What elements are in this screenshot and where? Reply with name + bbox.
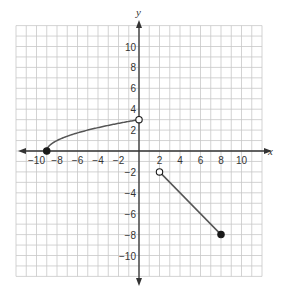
y-axis-label: y <box>135 6 141 18</box>
y-tick-label: 6 <box>130 83 136 94</box>
y-tick-label: 8 <box>130 62 136 73</box>
x-tick-label: −8 <box>51 155 63 166</box>
y-tick-label: −6 <box>125 209 137 220</box>
curve-path <box>47 120 139 151</box>
y-tick-label: −4 <box>125 188 137 199</box>
closed-endpoint-icon <box>218 231 224 237</box>
open-endpoint-icon <box>136 116 142 122</box>
x-tick-label: 8 <box>218 155 224 166</box>
x-tick-label: 4 <box>177 155 183 166</box>
y-axis-down-arrow-icon <box>136 278 142 286</box>
y-axis-up-arrow-icon <box>136 20 142 28</box>
x-axis-left-arrow-icon <box>18 148 26 154</box>
coordinate-plane: −10−8−6−4−2246810108642−2−4−6−8−10 x y <box>0 0 282 293</box>
y-tick-label: 10 <box>125 42 137 53</box>
x-tick-label: 10 <box>236 155 248 166</box>
x-tick-label: 2 <box>157 155 163 166</box>
open-endpoint-icon <box>156 169 162 175</box>
x-tick-label: −2 <box>113 155 125 166</box>
x-tick-label: −6 <box>72 155 84 166</box>
y-tick-label: −10 <box>119 251 136 262</box>
x-tick-label: −10 <box>28 155 45 166</box>
y-tick-label: 4 <box>130 104 136 115</box>
x-tick-label: −4 <box>92 155 104 166</box>
x-tick-label: 6 <box>198 155 204 166</box>
y-tick-label: −8 <box>125 230 137 241</box>
closed-endpoint-icon <box>44 148 50 154</box>
axes <box>18 20 272 286</box>
x-axis-label: x <box>267 145 273 157</box>
y-tick-label: 2 <box>130 125 136 136</box>
y-tick-label: −2 <box>125 167 137 178</box>
